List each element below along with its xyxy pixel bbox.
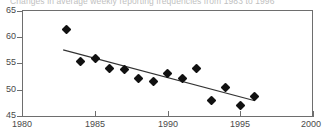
- data-point: [235, 101, 245, 111]
- data-point: [90, 53, 100, 63]
- data-point: [61, 24, 71, 34]
- data-point: [250, 91, 260, 101]
- data-point: [163, 69, 173, 79]
- data-point: [134, 73, 144, 83]
- data-point: [221, 83, 231, 93]
- data-point: [76, 57, 86, 67]
- data-point: [192, 63, 202, 73]
- data-point: [206, 96, 216, 106]
- data-point: [148, 76, 158, 86]
- chart-container: Changes in average weekly reporting freq…: [0, 0, 330, 136]
- data-point: [105, 64, 115, 74]
- scatter-points-layer: [0, 0, 330, 136]
- data-point: [119, 65, 129, 75]
- data-point: [177, 74, 187, 84]
